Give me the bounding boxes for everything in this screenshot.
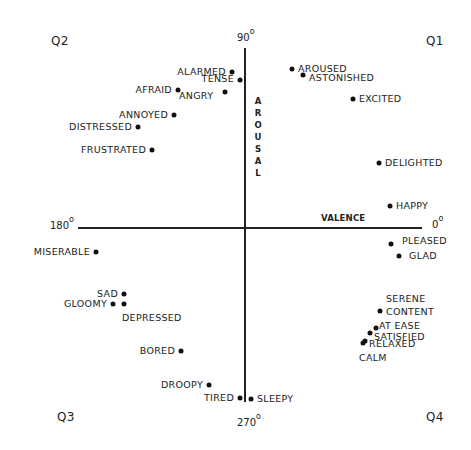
angle-value: 270 <box>237 417 256 428</box>
quadrant-label-q4: Q4 <box>426 410 443 424</box>
emotion-dot <box>389 242 394 247</box>
quadrant-label-q3: Q3 <box>57 410 74 424</box>
emotion-dot <box>207 383 212 388</box>
emotion-dot <box>368 331 373 336</box>
emotion-label-distressed: DISTRESSED <box>69 122 132 132</box>
emotion-dot <box>111 302 116 307</box>
emotion-dot <box>361 341 366 346</box>
emotion-label-delighted: DELIGHTED <box>385 158 443 168</box>
degree-symbol: o <box>250 27 255 36</box>
angle-value: 180 <box>50 220 69 231</box>
emotion-label-calm: CALM <box>359 353 387 363</box>
vertical-axis-line <box>244 48 246 402</box>
emotion-dot <box>122 302 127 307</box>
emotion-dot <box>150 148 155 153</box>
emotion-label-miserable: MISERABLE <box>34 247 90 257</box>
emotion-dot <box>122 292 127 297</box>
emotion-label-serene: SERENE <box>386 294 426 304</box>
degree-symbol: o <box>69 215 74 224</box>
emotion-dot <box>238 396 243 401</box>
emotion-label-glad: GLAD <box>409 251 437 261</box>
emotion-dot <box>249 397 254 402</box>
emotion-label-annoyed: ANNOYED <box>119 110 168 120</box>
arousal-axis-title: AROUSAL <box>253 95 263 179</box>
emotion-dot <box>238 78 243 83</box>
emotion-dot <box>290 67 295 72</box>
quadrant-label-q2: Q2 <box>51 34 68 48</box>
emotion-dot <box>136 125 141 130</box>
emotion-dot <box>374 326 379 331</box>
emotion-label-content: CONTENT <box>386 307 434 317</box>
circumplex-diagram: Q2 Q1 Q3 Q4 90o 180o 0o 270o VALENCE ARO… <box>0 0 471 450</box>
emotion-label-happy: HAPPY <box>396 201 428 211</box>
emotion-label-tense: TENSE <box>202 74 234 84</box>
angle-label-180: 180o <box>50 218 74 231</box>
emotion-label-pleased: PLEASED <box>402 236 447 246</box>
emotion-label-tired: TIRED <box>204 393 234 403</box>
emotion-label-relaxed: RELAXED <box>369 339 416 349</box>
angle-value: 90 <box>237 32 250 43</box>
emotion-dot <box>301 73 306 78</box>
emotion-dot <box>94 250 99 255</box>
emotion-label-sleepy: SLEEPY <box>257 394 293 404</box>
emotion-dot <box>172 113 177 118</box>
emotion-label-depressed: DEPRESSED <box>122 313 182 323</box>
emotion-label-at-ease: AT EASE <box>379 321 420 331</box>
emotion-dot <box>388 204 393 209</box>
emotion-label-bored: BORED <box>140 346 175 356</box>
horizontal-axis-line <box>78 227 422 229</box>
quadrant-label-q1: Q1 <box>426 34 443 48</box>
angle-label-270: 270o <box>237 415 261 428</box>
emotion-dot <box>377 161 382 166</box>
emotion-dot <box>351 97 356 102</box>
emotion-label-afraid: AFRAID <box>135 85 172 95</box>
degree-symbol: o <box>438 214 443 223</box>
emotion-label-droopy: DROOPY <box>161 380 203 390</box>
angle-label-0: 0o <box>432 217 443 230</box>
emotion-dot <box>223 90 228 95</box>
angle-label-90: 90o <box>237 30 255 43</box>
emotion-dot <box>378 309 383 314</box>
emotion-dot <box>397 254 402 259</box>
emotion-label-angry: ANGRY <box>179 91 213 101</box>
emotion-label-astonished: ASTONISHED <box>309 73 374 83</box>
emotion-label-gloomy: GLOOMY <box>64 299 107 309</box>
emotion-dot <box>179 349 184 354</box>
emotion-label-excited: EXCITED <box>359 94 401 104</box>
valence-axis-title: VALENCE <box>321 213 365 223</box>
emotion-label-frustrated: FRUSTRATED <box>81 145 146 155</box>
degree-symbol: o <box>256 412 261 421</box>
